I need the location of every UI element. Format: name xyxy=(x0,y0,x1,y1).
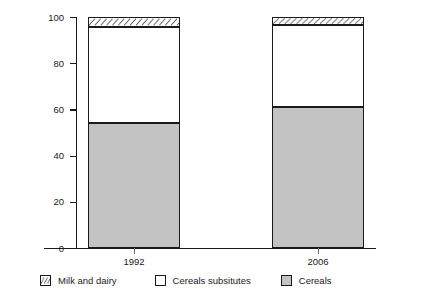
y-tick-label-0: 0 xyxy=(59,244,64,254)
x-tick-label-1992: 1992 xyxy=(104,256,164,267)
legend-item-cereals: Cereals xyxy=(281,275,332,286)
x-tick-label-2006: 2006 xyxy=(288,256,348,267)
y-tick-0 xyxy=(70,248,76,249)
bar-1992-segment-cereals-subsitutes xyxy=(88,27,180,123)
legend-item-cereals-subsitutes: Cereals subsitutes xyxy=(155,275,251,286)
bar-1992-segment-milk-and-dairy xyxy=(88,17,180,27)
legend-label-cereals-subsitutes: Cereals subsitutes xyxy=(173,275,251,286)
stacked-bar-chart: 100 80 60 40 20 0 xyxy=(0,0,436,307)
legend-label-cereals: Cereals xyxy=(299,275,332,286)
legend-item-milk-and-dairy: Milk and dairy xyxy=(40,275,117,286)
y-tick-20 xyxy=(70,202,76,203)
x-tick-2006 xyxy=(318,248,319,254)
y-tick-label-60: 60 xyxy=(53,105,64,115)
y-tick-40 xyxy=(70,156,76,157)
legend-label-milk-and-dairy: Milk and dairy xyxy=(58,275,117,286)
x-tick-1992 xyxy=(134,248,135,254)
y-tick-100 xyxy=(70,17,76,18)
bar-2006-segment-milk-and-dairy xyxy=(272,17,364,25)
y-tick-label-80: 80 xyxy=(53,59,64,69)
plot-area: 100 80 60 40 20 0 xyxy=(0,0,436,307)
y-tick-label-20: 20 xyxy=(53,197,64,207)
hatch-pattern-icon xyxy=(89,18,179,26)
y-tick-label-100: 100 xyxy=(48,13,64,23)
chart-legend: Milk and dairy Cereals subsitutes Cereal… xyxy=(40,275,332,286)
bar-2006-segment-cereals xyxy=(272,107,364,248)
y-axis-line xyxy=(76,17,77,249)
y-tick-label-40: 40 xyxy=(53,151,64,161)
y-tick-60 xyxy=(70,109,76,110)
y-tick-80 xyxy=(70,63,76,64)
hatched-swatch-icon xyxy=(40,275,51,286)
gray-swatch-icon xyxy=(281,275,292,286)
hatch-pattern-icon xyxy=(273,18,363,24)
bar-1992-segment-cereals xyxy=(88,123,180,248)
white-swatch-icon xyxy=(155,275,166,286)
bar-2006-segment-cereals-subsitutes xyxy=(272,25,364,107)
